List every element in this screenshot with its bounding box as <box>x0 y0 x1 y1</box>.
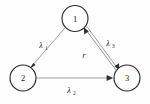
edge-2-to-3 <box>36 75 113 81</box>
node-3-label: 3 <box>125 73 129 83</box>
arrowhead-into-node-3-bottom <box>107 75 114 81</box>
edge-label-lambda3-symbol: λ <box>105 39 110 48</box>
edge-line-r <box>86 30 116 70</box>
edge-label-lambda2-subscript: 2 <box>73 90 76 96</box>
node-3[interactable]: 3 <box>114 65 140 91</box>
edge-line-lambda1 <box>31 28 65 67</box>
edge-label-lambda1-symbol: λ <box>38 41 43 50</box>
state-transition-diagram: 1 2 3 λ 1 λ 2 λ 3 r <box>0 0 150 104</box>
edge-label-lambda3-subscript: 3 <box>112 43 115 49</box>
node-2[interactable]: 2 <box>10 65 36 91</box>
node-2-label: 2 <box>21 73 25 83</box>
diagram-canvas: 1 2 3 λ 1 λ 2 λ 3 r <box>0 0 150 104</box>
edge-label-lambda1: λ 1 <box>38 41 48 51</box>
edge-label-r-symbol: r <box>82 51 86 60</box>
edge-label-lambda3: λ 3 <box>105 39 115 49</box>
edge-3-to-1 <box>84 27 116 70</box>
node-1[interactable]: 1 <box>62 6 88 32</box>
node-1-label: 1 <box>73 14 77 24</box>
edge-label-lambda2: λ 2 <box>66 86 76 96</box>
edge-label-r: r <box>82 51 86 60</box>
edge-label-lambda2-symbol: λ <box>66 86 71 95</box>
edge-label-lambda1-subscript: 1 <box>45 45 48 51</box>
